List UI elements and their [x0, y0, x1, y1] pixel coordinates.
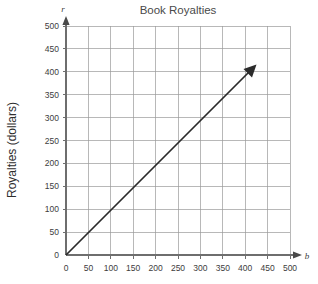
x-tick-label: 400 — [238, 263, 252, 273]
x-tick-label: 250 — [171, 263, 185, 273]
x-axis-variable-label: b — [305, 251, 310, 261]
x-tick-label: 350 — [216, 263, 230, 273]
y-tick-label: 450 — [45, 44, 59, 54]
x-tick-label: 200 — [149, 263, 163, 273]
y-tick-label: 500 — [45, 21, 59, 31]
y-tick-label: 100 — [45, 204, 59, 214]
book-royalties-line-chart: Book Royalties r b Royalties (dollars) — [0, 0, 318, 284]
y-tick-label: 250 — [45, 136, 59, 146]
y-axis-variable-label: r — [61, 4, 65, 14]
y-axis-title: Royalties (dollars) — [5, 102, 19, 198]
y-tick-label: 150 — [45, 181, 59, 191]
y-tick-label: 300 — [45, 113, 59, 123]
x-tick-label: 500 — [283, 263, 297, 273]
y-tick-label: 200 — [45, 158, 59, 168]
y-tick-label: 350 — [45, 90, 59, 100]
x-tick-label: 100 — [104, 263, 118, 273]
x-tick-label: 300 — [193, 263, 207, 273]
x-tick-label: 0 — [64, 263, 69, 273]
x-tick-label: 50 — [84, 263, 94, 273]
chart-container: Book Royalties r b Royalties (dollars) — [0, 0, 318, 284]
chart-title: Book Royalties — [140, 4, 217, 16]
y-tick-label: 0 — [54, 250, 59, 260]
x-tick-label: 150 — [126, 263, 140, 273]
y-tick-label: 50 — [50, 227, 60, 237]
x-tick-label: 450 — [261, 263, 275, 273]
y-tick-label: 400 — [45, 67, 59, 77]
